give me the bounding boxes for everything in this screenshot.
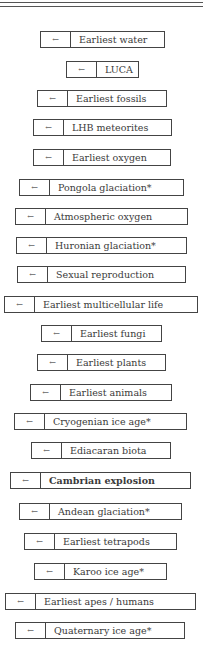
arrow-left-icon[interactable]: ← <box>11 473 41 488</box>
event-label: Earliest fungi <box>72 326 161 341</box>
timeline-event-row[interactable]: ←Andean glaciation* <box>19 503 182 520</box>
timeline-event-row[interactable]: ←Atmospheric oxygen <box>15 208 188 225</box>
timeline-event-row[interactable]: ←Pongola glaciation* <box>19 179 184 196</box>
event-label: Karoo ice age* <box>65 564 166 579</box>
timeline-event-row[interactable]: ←Earliest oxygen <box>33 149 171 166</box>
arrow-left-icon[interactable]: ← <box>18 267 48 282</box>
arrow-left-icon[interactable]: ← <box>16 623 46 638</box>
timeline-event-row[interactable]: ←Cambrian explosion <box>10 472 191 489</box>
arrow-left-icon[interactable]: ← <box>20 180 50 195</box>
arrow-left-icon[interactable]: ← <box>35 564 65 579</box>
arrow-left-icon[interactable]: ← <box>31 385 61 400</box>
event-label: Earliest plants <box>68 355 165 370</box>
timeline-event-row[interactable]: ←Karoo ice age* <box>34 563 167 580</box>
event-label: Earliest apes / humans <box>36 594 195 609</box>
event-label: Huronian glaciation* <box>47 238 186 253</box>
timeline-event-row[interactable]: ←Sexual reproduction <box>17 266 186 283</box>
event-label: Quaternary ice age* <box>46 623 184 638</box>
arrow-left-icon[interactable]: ← <box>41 32 71 47</box>
arrow-left-icon[interactable]: ← <box>34 150 64 165</box>
timeline-event-row[interactable]: ←Earliest animals <box>30 384 172 401</box>
timeline-event-row[interactable]: ←Huronian glaciation* <box>16 237 187 254</box>
arrow-left-icon[interactable]: ← <box>6 594 36 609</box>
timeline-event-row[interactable]: ←Ediacaran biota <box>31 442 171 459</box>
event-label: Earliest water <box>71 32 164 47</box>
arrow-left-icon[interactable]: ← <box>42 326 72 341</box>
event-label: Earliest fossils <box>68 91 166 106</box>
event-label: LHB meteorites <box>64 120 171 135</box>
top-double-rule <box>0 2 203 7</box>
timeline-event-row[interactable]: ←LHB meteorites <box>33 119 172 136</box>
event-label: Pongola glaciation* <box>50 180 183 195</box>
event-label: Earliest oxygen <box>64 150 170 165</box>
arrow-left-icon[interactable]: ← <box>34 120 64 135</box>
arrow-left-icon[interactable]: ← <box>15 414 45 429</box>
timeline-event-row[interactable]: ←Earliest water <box>40 31 165 48</box>
timeline-event-row[interactable]: ←Cryogenian ice age* <box>14 413 187 430</box>
event-label: Earliest animals <box>61 385 171 400</box>
event-label: Earliest tetrapods <box>55 534 176 549</box>
arrow-left-icon[interactable]: ← <box>16 209 46 224</box>
event-label: Atmospheric oxygen <box>46 209 187 224</box>
timeline-event-row[interactable]: ←Earliest plants <box>37 354 166 371</box>
timeline-event-row[interactable]: ←Earliest tetrapods <box>24 533 177 550</box>
event-label: Earliest multicellular life <box>35 297 197 312</box>
timeline-event-row[interactable]: ←Earliest apes / humans <box>5 593 196 610</box>
event-label: Cambrian explosion <box>41 473 190 488</box>
arrow-left-icon[interactable]: ← <box>38 355 68 370</box>
event-label: Sexual reproduction <box>48 267 185 282</box>
timeline-event-row[interactable]: ←Quaternary ice age* <box>15 622 185 639</box>
event-label: Cryogenian ice age* <box>45 414 186 429</box>
timeline-event-row[interactable]: ←Earliest multicellular life <box>4 296 198 313</box>
arrow-left-icon[interactable]: ← <box>5 297 35 312</box>
arrow-left-icon[interactable]: ← <box>67 62 97 77</box>
arrow-left-icon[interactable]: ← <box>25 534 55 549</box>
event-label: Andean glaciation* <box>50 504 181 519</box>
timeline-event-row[interactable]: ←LUCA <box>66 61 139 78</box>
event-label: Ediacaran biota <box>62 443 170 458</box>
arrow-left-icon[interactable]: ← <box>17 238 47 253</box>
timeline-event-row[interactable]: ←Earliest fungi <box>41 325 162 342</box>
event-label: LUCA <box>97 62 138 77</box>
arrow-left-icon[interactable]: ← <box>20 504 50 519</box>
timeline-event-row[interactable]: ←Earliest fossils <box>37 90 167 107</box>
arrow-left-icon[interactable]: ← <box>38 91 68 106</box>
arrow-left-icon[interactable]: ← <box>32 443 62 458</box>
